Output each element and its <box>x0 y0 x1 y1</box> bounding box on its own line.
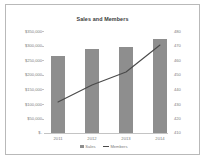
plot-area: $350,000 $300,000 $250,000 $200,000 $150… <box>6 5 201 156</box>
members-line-path <box>58 45 160 102</box>
legend-label-sales: Sales <box>85 144 95 149</box>
x-tick-label-2012: 2012 <box>78 137 106 141</box>
legend-item-members[interactable]: Members <box>103 144 128 149</box>
chart-legend: Sales Members <box>6 144 201 149</box>
bar-swatch-icon <box>80 145 84 149</box>
legend-label-members: Members <box>110 144 127 149</box>
line-swatch-icon <box>103 146 109 147</box>
members-line-series[interactable] <box>6 5 201 156</box>
x-tick-label-2014: 2014 <box>146 137 174 141</box>
legend-item-sales[interactable]: Sales <box>80 144 96 149</box>
x-tick-label-2013: 2013 <box>112 137 140 141</box>
chart-container: Sales and Members $350,000 $300,000 $250… <box>5 4 200 155</box>
x-tick-label-2011: 2011 <box>44 137 72 141</box>
